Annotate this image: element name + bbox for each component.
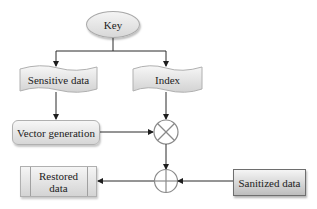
add-operator-icon — [155, 170, 178, 193]
sanitized-data-label: Sanitized data — [238, 177, 300, 189]
process-bar-right — [87, 167, 88, 196]
multiply-operator-icon — [154, 120, 178, 144]
sensitive-data-node: Sensitive data — [20, 68, 97, 91]
sensitive-data-label: Sensitive data — [28, 74, 89, 86]
index-label: Index — [155, 74, 180, 86]
index-node: Index — [133, 68, 202, 91]
key-node: Key — [86, 11, 140, 38]
flow-diagram: Key Sensitive data Index Vector generati… — [0, 0, 317, 209]
restored-data-node: Restored data — [20, 166, 97, 197]
vector-generation-label: Vector generation — [17, 127, 95, 139]
restored-data-label-line1: Restored — [39, 170, 78, 182]
key-label: Key — [104, 19, 122, 31]
sanitized-data-node: Sanitized data — [233, 169, 306, 196]
vector-generation-node: Vector generation — [12, 120, 100, 145]
restored-data-label-line2: data — [49, 182, 67, 194]
process-bar-left — [30, 167, 31, 196]
